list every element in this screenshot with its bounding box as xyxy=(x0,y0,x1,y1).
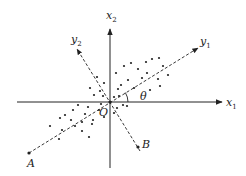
scatter-point xyxy=(74,125,76,127)
scatter-point xyxy=(159,85,161,87)
scatter-point xyxy=(81,121,83,123)
scatter-point xyxy=(117,88,119,90)
scatter-point xyxy=(72,109,74,111)
point-A xyxy=(27,151,30,154)
scatter-point xyxy=(81,130,83,132)
x1-axis-label: x1 xyxy=(226,96,237,111)
scatter-points xyxy=(49,57,169,140)
x2-axis-label: x2 xyxy=(106,9,117,24)
scatter-point xyxy=(130,62,132,64)
scatter-point xyxy=(58,138,60,140)
scatter-point xyxy=(88,136,90,138)
scatter-point xyxy=(145,61,147,63)
scatter-point xyxy=(158,57,160,59)
y1-axis-label: y1 xyxy=(199,35,211,50)
scatter-point xyxy=(77,104,79,106)
scatter-point xyxy=(87,106,89,108)
scatter-point xyxy=(99,90,101,92)
angle-theta-arc xyxy=(125,93,128,103)
scatter-point xyxy=(61,129,63,131)
scatter-point xyxy=(49,125,51,127)
scatter-point xyxy=(133,87,135,89)
point-B xyxy=(136,145,139,148)
origin-label: O xyxy=(99,106,108,119)
scatter-point xyxy=(151,58,153,60)
scatter-point xyxy=(102,95,104,97)
scatter-point xyxy=(157,78,159,80)
scatter-point xyxy=(64,114,66,116)
scatter-point xyxy=(127,79,129,81)
scatter-point xyxy=(167,74,169,76)
scatter-point xyxy=(120,84,122,86)
y2-axis-label: y2 xyxy=(70,33,82,48)
scatter-point xyxy=(92,119,94,121)
origin-point xyxy=(108,100,111,103)
scatter-point xyxy=(149,89,151,91)
scatter-point xyxy=(141,77,143,79)
scatter-point xyxy=(91,123,93,125)
scatter-point xyxy=(84,113,86,115)
scatter-point xyxy=(126,105,128,107)
scatter-point xyxy=(118,95,120,97)
y1-axis xyxy=(29,48,198,153)
scatter-point xyxy=(146,72,148,74)
scatter-point xyxy=(59,117,61,119)
angle-theta-label: θ xyxy=(140,90,147,103)
scatter-point xyxy=(70,119,72,121)
scatter-point xyxy=(89,87,91,89)
scatter-point xyxy=(113,96,115,98)
point-B-label: B xyxy=(141,138,150,151)
scatter-point xyxy=(115,72,117,74)
scatter-point xyxy=(93,94,95,96)
point-A-label: A xyxy=(26,157,35,170)
scatter-point xyxy=(122,104,124,106)
scatter-point xyxy=(137,68,139,70)
scatter-point xyxy=(113,112,115,114)
pca-axes-diagram: x1 x2 y1 y2 O θ A B xyxy=(0,0,246,176)
scatter-point xyxy=(123,65,125,67)
scatter-point xyxy=(116,107,118,109)
y2-axis xyxy=(77,49,140,151)
scatter-point xyxy=(96,76,98,78)
scatter-point xyxy=(162,65,164,67)
scatter-point xyxy=(103,82,105,84)
scatter-point xyxy=(100,103,102,105)
